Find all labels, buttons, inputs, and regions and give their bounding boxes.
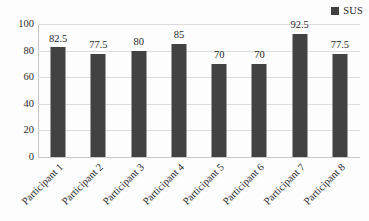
plot-area: 82.577.58085707092.577.5 <box>38 24 360 157</box>
bar[interactable] <box>332 54 347 157</box>
bar-slot: 70 <box>199 24 239 157</box>
bar-value-label: 92.5 <box>290 20 308 31</box>
legend-label-sus: SUS <box>343 6 363 17</box>
bar[interactable] <box>51 47 66 157</box>
x-axis-label-slot: Participant 8 <box>320 158 360 220</box>
bar[interactable] <box>131 51 146 157</box>
y-axis-tick-label: 80 <box>0 45 34 56</box>
bar-value-label: 85 <box>174 30 185 41</box>
bar[interactable] <box>252 64 267 157</box>
bar-value-label: 80 <box>133 37 144 48</box>
bar[interactable] <box>91 54 106 157</box>
y-axis-tick-label: 100 <box>0 19 34 30</box>
bar[interactable] <box>171 44 186 157</box>
legend-swatch-sus <box>331 7 339 15</box>
bar[interactable] <box>212 64 227 157</box>
bar-slot: 77.5 <box>320 24 360 157</box>
bar-value-label: 82.5 <box>49 34 67 45</box>
bar-slot: 82.5 <box>38 24 78 157</box>
y-axis-tick-label: 20 <box>0 125 34 136</box>
bar-value-label: 70 <box>214 50 225 61</box>
x-axis-tick-label: Participant 1 <box>20 162 65 207</box>
bar[interactable] <box>292 34 307 157</box>
bar-slot: 70 <box>239 24 279 157</box>
y-axis-tick-labels: 020406080100 <box>0 24 34 157</box>
x-axis-tick-labels: Participant 1Participant 2Participant 3P… <box>38 158 360 220</box>
chart-legend: SUS <box>331 4 363 18</box>
y-axis-tick-label: 0 <box>0 152 34 163</box>
bar-value-label: 77.5 <box>89 40 107 51</box>
bar-slot: 92.5 <box>280 24 320 157</box>
bar-value-label: 70 <box>254 50 265 61</box>
y-axis-tick-label: 60 <box>0 72 34 83</box>
bar-value-label: 77.5 <box>331 40 349 51</box>
bar-slot: 80 <box>119 24 159 157</box>
y-axis-tick-label: 40 <box>0 99 34 110</box>
bar-chart: SUS 020406080100 82.577.58085707092.577.… <box>0 0 369 221</box>
bar-slot: 85 <box>159 24 199 157</box>
bar-series-sus: 82.577.58085707092.577.5 <box>38 24 360 157</box>
bar-slot: 77.5 <box>78 24 118 157</box>
